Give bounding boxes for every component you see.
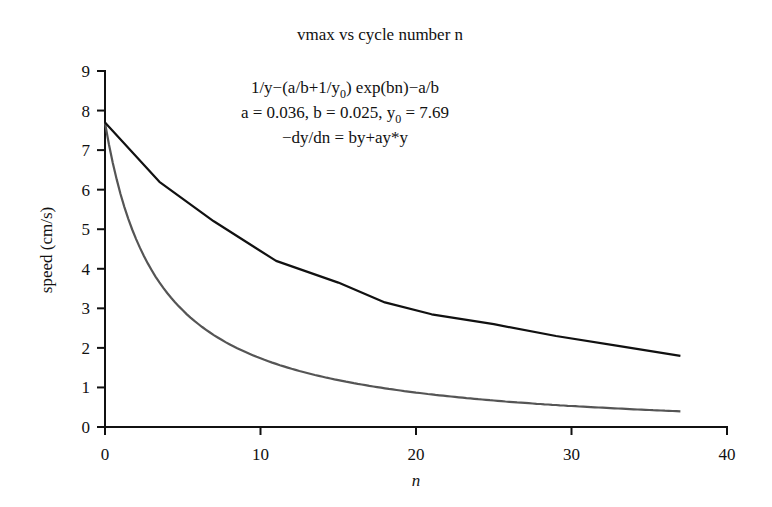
y-tick-label: 2 (82, 339, 91, 358)
y-tick-label: 9 (82, 62, 91, 81)
y-tick-label: 3 (82, 299, 91, 318)
x-tick-label: 10 (252, 445, 269, 464)
model-fit-line (105, 123, 680, 412)
annotation-line-2: a = 0.036, b = 0.025, y0 = 7.69 (241, 103, 449, 126)
y-tick-label: 5 (82, 220, 91, 239)
x-tick-label: 40 (719, 445, 736, 464)
y-tick-label: 6 (82, 181, 91, 200)
series-group (105, 122, 680, 411)
measured-data-line (105, 122, 680, 355)
y-tick-label: 7 (82, 141, 91, 160)
x-ticks: 010203040 (101, 427, 736, 464)
y-tick-label: 0 (82, 418, 91, 437)
annotation: 1/y−(a/b+1/y0) exp(bn)−a/b a = 0.036, b … (241, 78, 449, 147)
annotation-line-1: 1/y−(a/b+1/y0) exp(bn)−a/b (251, 78, 439, 101)
x-axis-label: n (412, 471, 421, 490)
chart-title: vmax vs cycle number n (297, 25, 464, 44)
y-tick-label: 4 (82, 260, 91, 279)
chart: vmax vs cycle number n 1/y−(a/b+1/y0) ex… (0, 0, 772, 507)
x-tick-label: 0 (101, 445, 110, 464)
y-axis-label: speed (cm/s) (37, 207, 56, 293)
y-tick-label: 8 (82, 102, 91, 121)
x-tick-label: 30 (563, 445, 580, 464)
annotation-line-3: −dy/dn = by+ay*y (282, 128, 409, 147)
x-tick-label: 20 (408, 445, 425, 464)
y-ticks: 0123456789 (82, 62, 106, 437)
y-tick-label: 1 (82, 378, 91, 397)
